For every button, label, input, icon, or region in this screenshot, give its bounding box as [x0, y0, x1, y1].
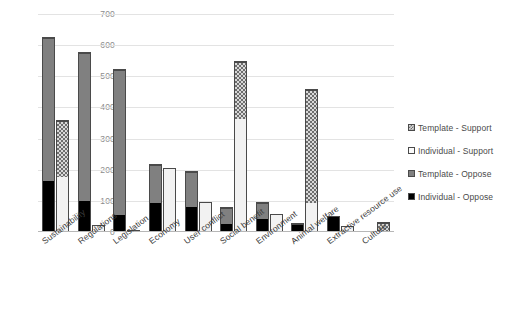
bar-oppose: [78, 52, 91, 232]
bar-group: [38, 14, 74, 232]
legend-item[interactable]: Individual - Oppose: [408, 185, 514, 208]
legend-item-label: Template - Support: [418, 123, 492, 133]
bar-group: [145, 14, 181, 232]
legend-item[interactable]: Individual - Support: [408, 139, 514, 162]
bar-oppose: [185, 171, 198, 232]
legend-swatch-icon: [408, 147, 415, 154]
bar-segment: [235, 119, 246, 231]
bar-segment: [43, 38, 54, 181]
bar-segment: [150, 165, 161, 203]
legend-swatch-icon: [408, 193, 415, 200]
bar-segment: [150, 203, 161, 231]
legend-item-label: Template - Oppose: [418, 169, 492, 179]
bar-support: [234, 61, 247, 232]
bar-segment: [114, 70, 125, 215]
bar-group: [323, 14, 359, 232]
bar-group: [287, 14, 323, 232]
bar-oppose: [113, 69, 126, 233]
chart-legend: Template - SupportIndividual - SupportTe…: [408, 116, 514, 208]
bar-oppose: [149, 164, 162, 232]
legend-swatch-icon: [408, 124, 415, 131]
plot-area: [38, 14, 394, 232]
bar-oppose: [42, 37, 55, 232]
bar-segment: [235, 62, 246, 119]
bar-group: [74, 14, 110, 232]
bar-support: [56, 120, 69, 232]
legend-swatch-icon: [408, 170, 415, 177]
bar-segment: [57, 121, 68, 177]
legend-item[interactable]: Template - Support: [408, 116, 514, 139]
bar-group: [252, 14, 288, 232]
bar-segment: [43, 181, 54, 231]
bar-segment: [186, 172, 197, 207]
bar-support: [305, 89, 318, 232]
bar-group: [180, 14, 216, 232]
bar-group: [216, 14, 252, 232]
bar-segment: [79, 53, 90, 201]
legend-item-label: Individual - Support: [418, 146, 493, 156]
legend-item-label: Individual - Oppose: [418, 192, 493, 202]
bar-segment: [306, 90, 317, 203]
bar-group: [109, 14, 145, 232]
bar-chart: 7006005004003002001000 SustainabilityReg…: [0, 0, 514, 320]
legend-item[interactable]: Template - Oppose: [408, 162, 514, 185]
